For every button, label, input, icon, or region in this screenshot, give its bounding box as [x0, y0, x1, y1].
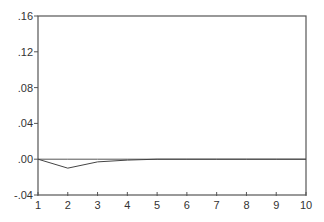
x-tick-label: 7 — [214, 199, 220, 211]
plot-frame — [38, 16, 306, 195]
y-tick-label: .12 — [18, 46, 33, 58]
x-tick-label: 4 — [124, 199, 130, 211]
line-chart: .16.12.08.04.00-.04 12345678910 — [0, 0, 324, 222]
x-tick-label: 1 — [35, 199, 41, 211]
y-tick-label: .08 — [18, 82, 33, 94]
y-tick-label: -.04 — [14, 189, 33, 201]
x-tick-label: 2 — [65, 199, 71, 211]
y-tick-label: .00 — [18, 153, 33, 165]
x-tick-label: 5 — [154, 199, 160, 211]
x-tick-label: 9 — [273, 199, 279, 211]
x-tick-label: 6 — [184, 199, 190, 211]
y-axis: .16.12.08.04.00-.04 — [14, 10, 38, 201]
y-tick-label: .16 — [18, 10, 33, 22]
x-tick-label: 8 — [243, 199, 249, 211]
y-tick-label: .04 — [18, 117, 33, 129]
x-tick-label: 10 — [300, 199, 312, 211]
x-tick-label: 3 — [94, 199, 100, 211]
